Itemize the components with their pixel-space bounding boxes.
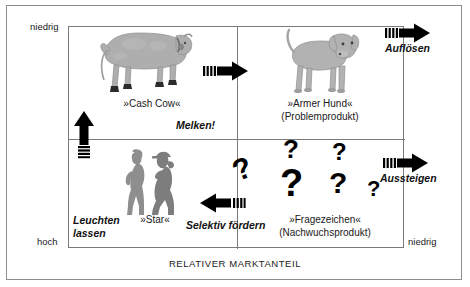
leuchten-line-1: Leuchten [73,214,120,227]
quadrant-label-poor-dog: »Armer Hund« (Problemprodukt) [250,98,390,123]
leuchten-line-2: lassen [73,227,120,240]
question-marks-icon: ? ? ? ? ? ? [233,140,378,216]
quadrant-label-question-mark: »Fragezeichen« (Nachwuchsprodukt) [250,214,400,239]
bcg-matrix-diagram: MARKTWACHSTUM RELATIVER MARKTANTEIL nied… [0,0,470,287]
melken-arrow-icon [203,60,249,82]
x-axis-label: RELATIVER MARKTANTEIL [0,258,470,269]
poor-dog-subtitle: (Problemprodukt) [250,111,390,124]
question-mark-title: »Fragezeichen« [250,214,400,227]
aussteigen-arrow-icon [383,152,429,174]
y-axis-tick-top: niedrig [30,21,59,32]
selektiv-foerdern-arrow-icon [196,192,246,214]
y-axis-tick-bottom: hoch [37,236,58,247]
cash-cow-title: »Cash Cow« [92,98,212,111]
strategy-label-selektiv-foerdern: Selektiv fördern [186,219,265,232]
aufloesen-arrow-icon [385,22,431,44]
quadrant-label-cash-cow: »Cash Cow« [92,98,212,111]
star-people-icon [108,146,194,216]
cow-icon [92,22,194,98]
strategy-label-melken: Melken! [176,119,215,132]
dog-icon [277,22,361,100]
strategy-label-leuchten-lassen: Leuchten lassen [73,214,120,239]
star-up-arrow-icon [72,110,96,160]
question-mark-subtitle: (Nachwuchsprodukt) [250,227,400,240]
strategy-label-aufloesen: Auflösen [385,42,430,55]
x-axis-tick-right: niedrig [408,236,437,247]
strategy-label-aussteigen: Aussteigen [380,172,437,185]
poor-dog-title: »Armer Hund« [250,98,390,111]
